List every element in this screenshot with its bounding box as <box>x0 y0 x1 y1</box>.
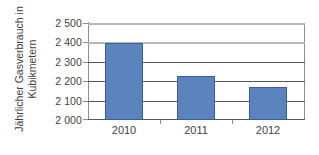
y-tick-label-2500: 2 500 <box>55 17 82 29</box>
gridline-2500 <box>88 23 305 25</box>
y-axis-title-line-1: Jährlicher Gasverbrauch in <box>13 6 26 131</box>
y-axis-title: Jährlicher Gasverbrauch in Kubikmetern <box>10 0 42 144</box>
y-tick-mark-2000 <box>83 119 88 120</box>
y-tick-label-2000: 2 000 <box>55 114 82 126</box>
plot-right-border <box>304 23 305 120</box>
y-tick-label-2200: 2 200 <box>55 75 82 87</box>
plot-area <box>88 23 305 120</box>
y-tick-mark-2400 <box>83 42 88 43</box>
y-tick-label-2400: 2 400 <box>55 36 82 48</box>
y-tick-label-2300: 2 300 <box>55 56 82 68</box>
x-axis-tick-labels: 2010 2011 2012 <box>88 124 305 144</box>
y-tick-mark-2500 <box>83 23 88 24</box>
y-axis-tick-labels: 2 500 2 400 2 300 2 200 2 100 2 000 <box>44 23 86 120</box>
y-axis-title-line-2: Kubikmetern <box>26 40 39 99</box>
y-tick-label-2100: 2 100 <box>55 95 82 107</box>
x-tick-label-2010: 2010 <box>112 124 136 136</box>
y-tick-mark-2300 <box>83 62 88 63</box>
y-tick-mark-2100 <box>83 101 88 102</box>
bar-2010[interactable] <box>105 43 143 120</box>
bar-2011[interactable] <box>177 76 215 120</box>
y-axis-line <box>88 22 89 120</box>
gas-consumption-bar-chart: Jährlicher Gasverbrauch in Kubikmetern 2… <box>0 0 319 155</box>
x-tick-label-2012: 2012 <box>256 124 280 136</box>
x-tick-label-2011: 2011 <box>184 124 208 136</box>
bar-2012[interactable] <box>249 87 287 120</box>
y-tick-mark-2200 <box>83 81 88 82</box>
